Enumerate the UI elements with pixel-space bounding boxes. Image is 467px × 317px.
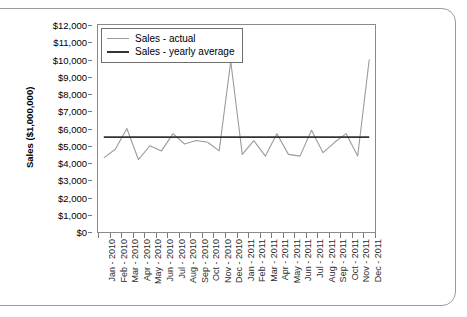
x-axis-tick-mark	[213, 233, 214, 238]
series-line-1	[104, 60, 369, 160]
legend-color-swatch	[107, 38, 129, 39]
y-axis-tick-mark	[88, 25, 92, 26]
y-axis-tick-label: $12,000	[53, 20, 87, 31]
x-axis-tick-mark	[225, 233, 226, 238]
x-axis-tick-mark	[352, 233, 353, 238]
x-axis-tick-mark	[121, 233, 122, 238]
legend-item-label: Sales - actual	[135, 33, 196, 44]
y-axis-tick-label: $6,000	[58, 123, 87, 134]
x-axis-tick-mark	[237, 233, 238, 238]
chart-legend: Sales - actualSales - yearly average	[101, 28, 243, 63]
y-axis-tick-mark	[88, 180, 92, 181]
y-axis-tick-label: $8,000	[58, 89, 87, 100]
x-axis-tick-mark	[167, 233, 168, 238]
legend-item-label: Sales - yearly average	[135, 46, 235, 57]
x-axis-tick-label: May - 2011	[292, 239, 302, 283]
x-axis-tick-label: Sep - 2010	[200, 239, 210, 283]
y-axis-tick-label: $5,000	[58, 140, 87, 151]
x-axis-tick-mark	[179, 233, 180, 238]
chart-screenshot: Sales ($1,000,000) $12,000$11,000$10,000…	[0, 0, 467, 317]
x-axis-tick-label: Jun - 2010	[165, 239, 175, 282]
x-axis-tick-label: Mar - 2011	[269, 239, 279, 282]
x-axis-tick-label: Feb - 2011	[257, 239, 267, 282]
y-axis-tick-label: $9,000	[58, 71, 87, 82]
y-axis-tick-labels: $12,000$11,000$10,000$9,000$8,000$7,000$…	[36, 24, 92, 233]
x-axis-tick-label: Jun - 2011	[303, 239, 313, 281]
y-axis-tick-mark	[88, 42, 92, 43]
x-axis-tick-label: Aug - 2010	[188, 239, 198, 283]
x-axis-tick-label: Jan - 2011	[246, 239, 256, 281]
x-axis-tick-label: Jul - 2010	[177, 239, 187, 279]
legend-color-swatch	[107, 51, 129, 53]
x-axis-tick-labels: Jan - 2010Feb - 2010Mar - 2010Apr - 2010…	[97, 239, 376, 301]
x-axis-tick-label: Feb - 2010	[119, 239, 129, 283]
y-axis-tick-mark	[88, 146, 92, 147]
y-axis-tick-label: $10,000	[53, 54, 87, 65]
y-axis-title: Sales ($1,000,000)	[22, 52, 36, 202]
legend-item[interactable]: Sales - actual	[107, 32, 235, 45]
y-axis-tick-label: $11,000	[53, 37, 87, 48]
y-axis-tick-mark	[88, 198, 92, 199]
x-axis-tick-mark	[156, 233, 157, 238]
x-axis-tick-label: Dec - 2011	[373, 239, 383, 282]
x-axis-tick-label: Jul - 2011	[315, 239, 325, 278]
x-axis-tick-label: Nov - 2010	[223, 239, 233, 283]
x-axis-tick-mark	[248, 233, 249, 238]
x-axis-tick-label: Mar - 2010	[130, 239, 140, 283]
y-axis-tick-label: $4,000	[58, 158, 87, 169]
y-axis-tick-label: $0	[76, 227, 87, 238]
x-axis-tick-label: Jan - 2010	[107, 239, 117, 282]
x-axis-tick-mark	[317, 233, 318, 238]
x-axis-tick-label: Apr - 2011	[280, 239, 290, 280]
legend-item[interactable]: Sales - yearly average	[107, 45, 235, 58]
y-axis-tick-mark	[88, 111, 92, 112]
y-axis-tick-label: $7,000	[58, 106, 87, 117]
x-axis-tick-label: Sep - 2011	[338, 239, 348, 282]
y-axis-tick-label: $2,000	[58, 192, 87, 203]
y-axis-tick-mark	[88, 163, 92, 164]
x-axis-tick-label: May - 2010	[153, 239, 163, 284]
x-axis-tick-mark	[271, 233, 272, 238]
x-axis-tick-label: Dec - 2010	[234, 239, 244, 283]
x-axis-tick-mark	[329, 233, 330, 238]
x-axis-tick-label: Aug - 2011	[327, 239, 337, 282]
x-axis-tick-mark	[133, 233, 134, 238]
x-axis-tick-label: Nov - 2011	[361, 239, 371, 282]
y-axis-tick-mark	[88, 60, 92, 61]
y-axis-tick-mark	[88, 129, 92, 130]
x-axis-tick-label: Oct - 2011	[350, 239, 360, 280]
y-axis-tick-mark	[88, 94, 92, 95]
x-axis-tick-mark	[306, 233, 307, 238]
y-axis-tick-label: $3,000	[58, 175, 87, 186]
x-axis-tick-mark	[363, 233, 364, 238]
x-axis-tick-mark	[283, 233, 284, 238]
x-axis-tick-mark	[260, 233, 261, 238]
x-axis-tick-mark	[202, 233, 203, 238]
x-axis-tick-label: Oct - 2010	[211, 239, 221, 281]
x-axis-tick-mark	[110, 233, 111, 238]
x-axis-tick-mark	[375, 233, 376, 238]
sales-line-chart: Sales ($1,000,000) $12,000$11,000$10,000…	[0, 0, 467, 317]
x-axis-tick-mark	[98, 233, 99, 238]
y-axis-tick-mark	[88, 77, 92, 78]
x-axis-tick-mark	[190, 233, 191, 238]
x-axis-tick-mark	[340, 233, 341, 238]
y-axis-tick-mark	[88, 215, 92, 216]
y-axis-tick-mark	[88, 232, 92, 233]
x-axis-tick-label: Apr - 2010	[142, 239, 152, 281]
y-axis-tick-label: $1,000	[58, 209, 87, 220]
x-axis-tick-mark	[144, 233, 145, 238]
x-axis-tick-mark	[294, 233, 295, 238]
